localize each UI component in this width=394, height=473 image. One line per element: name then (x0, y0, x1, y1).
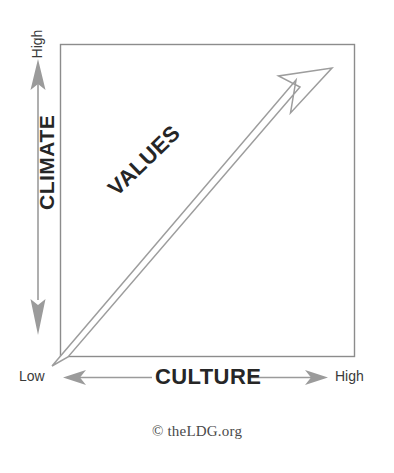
x-axis-low-label: Low (19, 369, 45, 383)
diagram-graphics (0, 0, 394, 473)
y-axis-label-climate: CLIMATE (36, 130, 57, 210)
climate-axis-arrowhead-down (31, 299, 46, 335)
values-diagonal-arrow (52, 68, 332, 366)
y-axis-high-label: High (30, 18, 44, 70)
copyright-credit: © theLDG.org (0, 424, 394, 439)
diagram-canvas: CLIMATE High CULTURE Low High VALUES © t… (0, 0, 394, 473)
x-axis-high-label: High (335, 369, 364, 383)
x-axis-label-culture: CULTURE (155, 366, 261, 388)
